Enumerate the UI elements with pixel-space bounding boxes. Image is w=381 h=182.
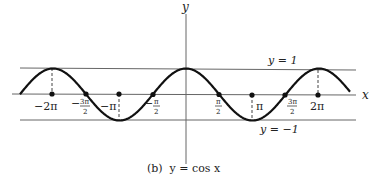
svg-text:2: 2 bbox=[83, 108, 87, 116]
tick-label-neg-3pi-over-2: − 3π 2 bbox=[71, 97, 90, 116]
x-axis-label: x bbox=[362, 88, 369, 102]
svg-text:π: π bbox=[216, 98, 221, 106]
x-axis bbox=[12, 94, 356, 95]
tick-label-neg-2pi: −2π bbox=[34, 100, 57, 113]
tick-label-neg-pi: −π bbox=[100, 100, 116, 113]
svg-text:π: π bbox=[154, 98, 159, 106]
svg-text:−: − bbox=[144, 97, 153, 110]
upper-line-label: y = 1 bbox=[267, 54, 297, 67]
y-axis-label: y bbox=[181, 0, 189, 14]
tick-label-pi-over-2: π 2 bbox=[215, 98, 222, 116]
tick-label-neg-pi-over-2: − π 2 bbox=[144, 97, 160, 116]
cosine-graph: y x y = 1 y = −1 −2π − 3π 2 −π − π 2 π 2… bbox=[0, 0, 381, 182]
tick-label-2pi: 2π bbox=[310, 100, 324, 113]
svg-text:2: 2 bbox=[154, 108, 158, 116]
svg-text:3π: 3π bbox=[80, 98, 89, 106]
svg-text:−: − bbox=[71, 97, 80, 110]
svg-text:2: 2 bbox=[290, 108, 294, 116]
lower-line-label: y = −1 bbox=[259, 123, 299, 136]
tick-label-pi: π bbox=[256, 100, 263, 113]
figure-caption: (b) y = cos x bbox=[147, 162, 221, 175]
svg-text:3π: 3π bbox=[288, 98, 297, 106]
svg-text:2: 2 bbox=[216, 108, 220, 116]
tick-label-3pi-over-2: 3π 2 bbox=[287, 98, 297, 116]
